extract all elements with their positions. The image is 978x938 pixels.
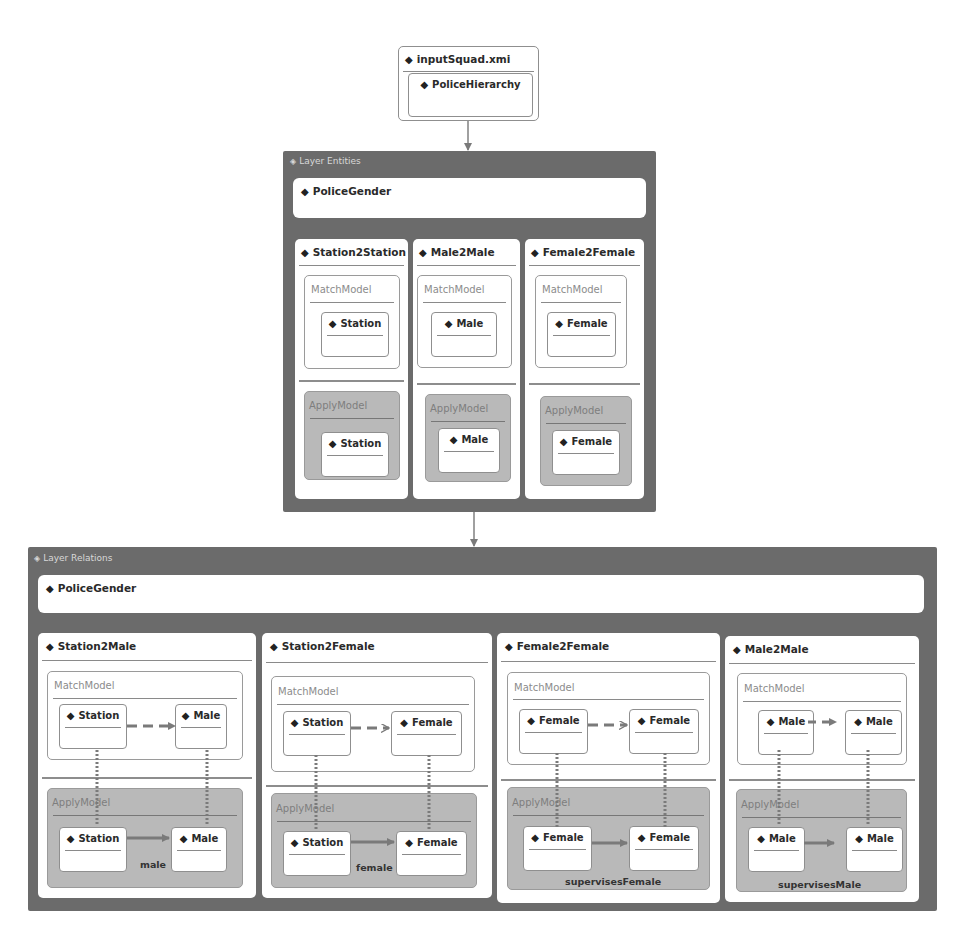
separator (501, 779, 716, 781)
root-node-police-hierarchy[interactable]: ◆ PoliceHierarchy (408, 73, 533, 117)
rule-station2station[interactable]: ◆ Station2Station MatchModel ◆Station Ap… (295, 239, 408, 499)
rule-female2female[interactable]: ◆ Female2Female MatchModel ◆Female Apply… (525, 239, 644, 499)
rule-title: ◆ Female2Female (505, 640, 609, 652)
module-title: ◆ PoliceGender (46, 582, 136, 594)
node-label: Station (78, 710, 119, 721)
divider (742, 817, 901, 818)
apply-model[interactable]: ApplyModel ◆Station ◆Female female (271, 793, 477, 888)
node-station[interactable]: ◆Station (321, 312, 389, 357)
node-female[interactable]: ◆Female (519, 709, 588, 754)
apply-model[interactable]: ApplyModel ◆Male ◆Male supervisesMale (736, 789, 907, 892)
node-male[interactable]: ◆Male (175, 704, 227, 749)
node-station[interactable]: ◆Station (283, 711, 351, 756)
apply-model[interactable]: ApplyModel ◆Male (425, 394, 511, 482)
node-title: ◆Female (520, 715, 587, 726)
match-model[interactable]: MatchModel ◆Male (417, 275, 512, 368)
relation-label: supervisesFemale (565, 876, 661, 887)
node-title: ◆Station (284, 837, 350, 848)
diamond-icon: ◆ (329, 318, 337, 329)
apply-model-label: ApplyModel (276, 803, 334, 814)
module-title: ◆ PoliceGender (301, 185, 391, 197)
node-label: Male (461, 434, 488, 445)
diamond-icon: ◆ (301, 186, 309, 197)
divider (513, 815, 704, 816)
match-model[interactable]: MatchModel ◆Male ◆Male (737, 673, 907, 765)
node-male[interactable]: ◆Male (845, 710, 902, 755)
layer-entities[interactable]: ◈ Layer Entities ◆ PoliceGender ◆ Statio… (283, 151, 656, 512)
node-female[interactable]: ◆Female (629, 709, 699, 754)
apply-model[interactable]: ApplyModel ◆Female ◆Female supervisesFem… (507, 787, 710, 890)
match-model[interactable]: MatchModel ◆Female (535, 275, 627, 368)
node-title: ◆Male (439, 434, 499, 445)
node-label: Male (769, 833, 796, 844)
module-police-gender[interactable]: ◆ PoliceGender (38, 575, 924, 613)
node-female[interactable]: ◆Female (629, 826, 699, 871)
node-female[interactable]: ◆Female (396, 831, 467, 876)
divider (764, 733, 808, 734)
node-male[interactable]: ◆Male (171, 827, 227, 872)
divider (635, 849, 693, 850)
node-male[interactable]: ◆Male (438, 428, 500, 473)
divider (558, 453, 614, 454)
rule-male2male[interactable]: ◆ Male2Male MatchModel ◆Male ApplyModel … (413, 239, 520, 499)
node-male[interactable]: ◆Male (748, 827, 805, 872)
module-police-gender[interactable]: ◆ PoliceGender (293, 178, 646, 218)
diamond-icon: ◆ (405, 837, 413, 848)
match-model[interactable]: MatchModel ◆Station (304, 275, 400, 369)
node-label: PoliceHierarchy (432, 79, 521, 90)
node-label: Male (866, 716, 893, 727)
divider (529, 265, 640, 266)
module-label: PoliceGender (58, 582, 136, 594)
node-male[interactable]: ◆Male (431, 312, 497, 357)
divider (541, 302, 621, 303)
rule-station2male[interactable]: ◆ Station2Male MatchModel ◆Station ◆Male… (38, 633, 256, 898)
diamond-icon: ◆ (291, 717, 299, 728)
node-station[interactable]: ◆Station (59, 704, 127, 749)
divider (546, 423, 626, 424)
divider (327, 455, 383, 456)
node-female[interactable]: ◆Female (523, 826, 592, 871)
input-model-box[interactable]: ◆ inputSquad.xmi ◆ PoliceHierarchy (398, 46, 539, 121)
diamond-icon: ◆ (270, 641, 278, 652)
rule-title: ◆ Station2Male (46, 640, 136, 652)
node-title: ◆Station (322, 438, 388, 449)
node-title: ◆Male (176, 710, 226, 721)
diamond-icon: ◆ (733, 644, 741, 655)
node-female[interactable]: ◆Female (547, 312, 616, 357)
rule-station2female[interactable]: ◆ Station2Female MatchModel ◆Station ◆Fe… (262, 633, 492, 898)
diamond-icon: ◆ (638, 715, 646, 726)
node-male[interactable]: ◆Male (758, 710, 814, 755)
separator (42, 777, 252, 779)
node-station[interactable]: ◆Station (321, 432, 389, 477)
divider (852, 850, 897, 851)
diamond-icon: ◆ (757, 833, 765, 844)
rule-female2female[interactable]: ◆ Female2Female MatchModel ◆Female ◆Fema… (497, 633, 720, 903)
divider (431, 421, 505, 422)
match-model[interactable]: MatchModel ◆Station ◆Female (271, 676, 475, 772)
node-station[interactable]: ◆Station (59, 827, 127, 872)
match-model[interactable]: MatchModel ◆Female ◆Female (507, 672, 710, 765)
rule-name: Male2Male (745, 643, 809, 655)
layer-entities-label: ◈ Layer Entities (290, 156, 361, 166)
rule-name: Station2Female (282, 640, 375, 652)
layer-relations-label: ◈ Layer Relations (34, 553, 112, 563)
layer-label-text: Layer Entities (299, 156, 361, 166)
apply-model[interactable]: ApplyModel ◆Station (304, 391, 400, 480)
rule-name: Station2Station (313, 246, 406, 258)
node-female[interactable]: ◆Female (552, 430, 620, 475)
apply-model[interactable]: ApplyModel ◆Female (540, 396, 632, 486)
node-station[interactable]: ◆Station (283, 831, 351, 876)
diamond-icon: ◆ (419, 247, 427, 258)
apply-model-label: ApplyModel (741, 799, 799, 810)
node-male[interactable]: ◆Male (846, 827, 903, 872)
node-female[interactable]: ◆Female (391, 711, 462, 756)
divider (65, 850, 121, 851)
match-model-label: MatchModel (744, 683, 805, 694)
rule-male2male[interactable]: ◆ Male2Male MatchModel ◆Male ◆Male Apply… (725, 636, 919, 902)
rule-name: Female2Female (517, 640, 610, 652)
diamond-icon: ◆ (560, 436, 568, 447)
divider (277, 704, 469, 705)
node-title: ◆Station (60, 710, 126, 721)
match-model[interactable]: MatchModel ◆Station ◆Male (47, 671, 243, 760)
apply-model[interactable]: ApplyModel ◆Station ◆Male male (47, 788, 243, 888)
